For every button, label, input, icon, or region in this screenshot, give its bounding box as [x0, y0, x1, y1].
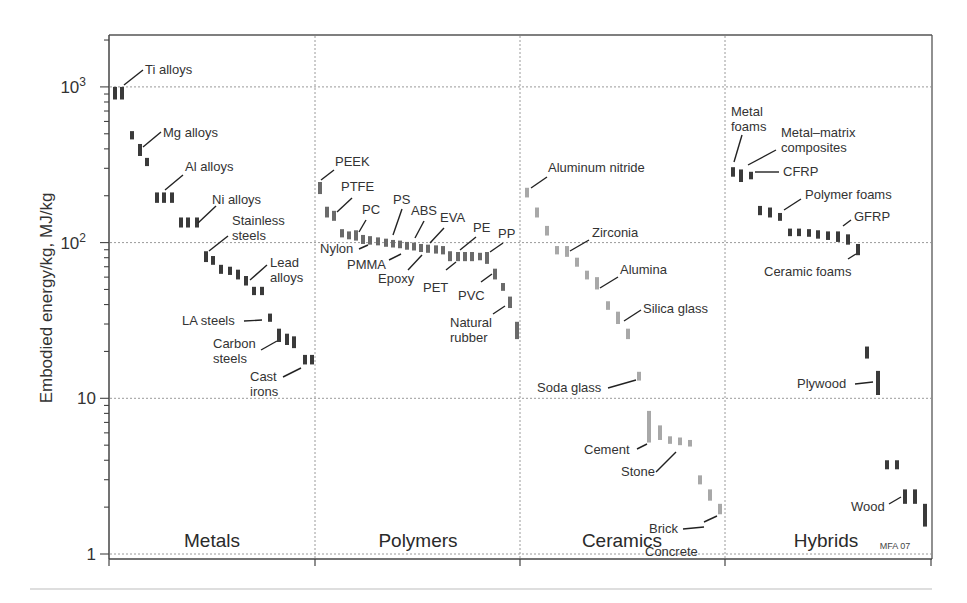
- data-bar: [778, 213, 782, 221]
- material-label: GFRP: [854, 209, 890, 224]
- data-bar: [285, 334, 289, 345]
- family-labels: MetalsPolymersCeramicsHybrids: [184, 530, 858, 551]
- material-label: PE: [473, 220, 491, 235]
- family-label-ceramics: Ceramics: [582, 530, 662, 551]
- data-bar: [170, 192, 174, 202]
- data-bar: [626, 329, 630, 339]
- data-bar: [606, 301, 610, 310]
- material-label: Cast: [250, 369, 277, 384]
- data-bar: [575, 258, 579, 267]
- y-tick-label: 1: [87, 545, 96, 564]
- data-bar: [236, 270, 240, 280]
- material-label: Silica glass: [643, 301, 709, 316]
- data-bar: [758, 206, 762, 215]
- data-bar: [885, 460, 889, 469]
- family-label-hybrids: Hybrids: [794, 530, 858, 551]
- data-bar: [856, 244, 860, 255]
- data-bar: [698, 475, 702, 484]
- data-bar: [515, 322, 519, 339]
- data-bar: [501, 283, 505, 291]
- material-label: PP: [498, 226, 515, 241]
- data-bar: [788, 229, 792, 237]
- material-label: PS: [393, 192, 411, 207]
- data-bar: [368, 236, 372, 245]
- material-label: Zirconia: [592, 225, 639, 240]
- data-bar: [456, 252, 460, 261]
- material-label: Carbon: [213, 336, 256, 351]
- y-tick-label: 102: [60, 231, 86, 253]
- data-bar: [555, 246, 559, 254]
- material-label: PVC: [458, 288, 485, 303]
- data-bar: [470, 252, 474, 261]
- material-label: Metal–matrix: [781, 125, 856, 140]
- data-bar: [595, 277, 599, 289]
- y-axis-ticks: 110102103: [60, 40, 109, 564]
- family-label-polymers: Polymers: [378, 530, 457, 551]
- data-bar: [113, 87, 117, 100]
- material-label: Stone: [621, 464, 655, 479]
- data-bar: [463, 252, 467, 261]
- data-bar: [493, 269, 497, 280]
- material-label: Plywood: [797, 376, 846, 391]
- data-bar: [525, 188, 529, 198]
- material-label: EVA: [440, 210, 465, 225]
- material-label: Cement: [584, 442, 630, 457]
- data-bar: [426, 245, 430, 253]
- data-bar: [155, 192, 159, 202]
- y-tick-label: 103: [60, 75, 86, 97]
- material-label: LA steels: [182, 313, 235, 328]
- data-bar: [846, 234, 850, 244]
- data-bar: [565, 246, 569, 257]
- data-bar: [434, 245, 438, 253]
- data-bar: [768, 208, 772, 218]
- data-bar: [419, 244, 423, 252]
- data-bar: [448, 251, 452, 261]
- data-bar: [535, 208, 539, 218]
- data-bar: [412, 243, 416, 251]
- material-label: foams: [731, 119, 767, 134]
- material-label: ABS: [411, 203, 437, 218]
- data-bar: [739, 169, 743, 182]
- data-bar: [179, 217, 183, 227]
- material-label: Alumina: [620, 262, 668, 277]
- credit-mark: MFA 07: [880, 541, 911, 551]
- data-bar: [130, 131, 134, 139]
- data-bar: [797, 229, 801, 237]
- y-tick-label: 10: [77, 389, 96, 408]
- data-bar: [204, 251, 208, 262]
- data-bar: [441, 246, 445, 254]
- material-label: Epoxy: [378, 271, 415, 286]
- data-bar: [688, 440, 692, 447]
- material-label: Mg alloys: [163, 125, 218, 140]
- data-bar: [162, 192, 166, 202]
- material-label: Soda glass: [537, 380, 602, 395]
- material-label: Ceramic foams: [764, 264, 852, 279]
- data-bar: [120, 87, 124, 100]
- material-label: Nylon: [320, 241, 353, 256]
- data-bar: [303, 355, 307, 365]
- data-bar: [398, 241, 402, 249]
- material-label: Wood: [851, 499, 885, 514]
- y-axis-label: Embodied energy/kg, MJ/kg: [37, 193, 56, 404]
- data-bar: [637, 372, 641, 381]
- data-bar: [913, 489, 917, 503]
- data-bar: [332, 211, 336, 221]
- material-label: PET: [423, 280, 448, 295]
- material-label: Lead: [270, 255, 299, 270]
- data-bar: [585, 271, 589, 280]
- data-bar: [354, 230, 358, 240]
- material-label: PC: [362, 202, 380, 217]
- data-bar: [678, 438, 682, 446]
- data-bar: [923, 504, 927, 527]
- data-bar: [347, 231, 351, 239]
- data-bar: [277, 329, 281, 342]
- data-bar: [138, 144, 142, 156]
- data-bar: [895, 460, 899, 469]
- material-label: Metal: [731, 104, 763, 119]
- material-label: irons: [250, 384, 279, 399]
- material-label: Aluminum nitride: [548, 160, 645, 175]
- material-labels: Ti alloysMg alloysAl alloysNi alloysStai…: [124, 62, 901, 559]
- data-bar: [708, 489, 712, 500]
- material-label: Polymer foams: [805, 187, 892, 202]
- data-bar: [292, 336, 296, 348]
